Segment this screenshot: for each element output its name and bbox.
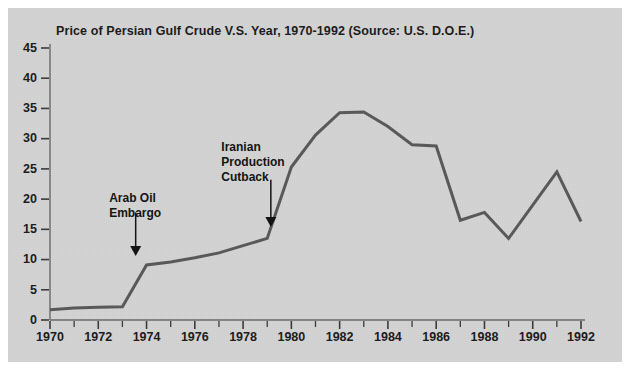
y-tick-label: 10	[23, 252, 37, 266]
y-axis: 051015202530354045	[23, 41, 50, 327]
annotation-line: Iranian	[221, 139, 260, 153]
y-tick-label: 5	[30, 283, 37, 297]
annotation-group: Arab OilEmbargoIranianProductionCutback	[109, 139, 285, 255]
chart-panel: Price of Persian Gulf Crude V.S. Year, 1…	[8, 8, 622, 362]
x-tick-label: 1972	[84, 330, 112, 344]
x-tick-label: 1986	[422, 330, 450, 344]
annotation-line: Production	[221, 154, 284, 168]
annotation-line: Arab Oil	[109, 191, 156, 205]
y-tick-label: 20	[23, 192, 37, 206]
annotation-line: Cutback	[221, 169, 269, 183]
x-tick-label: 1990	[519, 330, 547, 344]
y-tick-label: 45	[23, 41, 37, 55]
x-tick-label: 1988	[471, 330, 499, 344]
y-tick-label: 30	[23, 131, 37, 145]
x-tick-label: 1976	[181, 330, 209, 344]
x-tick-label: 1970	[36, 330, 64, 344]
annotation-text-iranian-production-cutback: IranianProductionCutback	[221, 139, 284, 183]
x-tick-label: 1978	[229, 330, 257, 344]
y-tick-label: 40	[23, 71, 37, 85]
y-tick-label: 25	[23, 162, 37, 176]
y-tick-label: 0	[30, 313, 37, 327]
chart-figure: Price of Persian Gulf Crude V.S. Year, 1…	[0, 0, 630, 370]
x-tick-label: 1980	[277, 330, 305, 344]
y-tick-label: 15	[23, 222, 37, 236]
x-axis: 1970197219741976197819801982198419861988…	[36, 320, 595, 344]
plot-area: 051015202530354045 197019721974197619781…	[8, 8, 622, 362]
x-tick-label: 1982	[326, 330, 354, 344]
x-tick-label: 1992	[567, 330, 595, 344]
annotation-arrow-head-arab-oil-embargo	[130, 246, 141, 256]
x-tick-label: 1974	[133, 330, 161, 344]
y-tick-label: 35	[23, 101, 37, 115]
annotation-arrow-head-iranian-production-cutback	[265, 217, 276, 227]
x-tick-label: 1984	[374, 330, 402, 344]
